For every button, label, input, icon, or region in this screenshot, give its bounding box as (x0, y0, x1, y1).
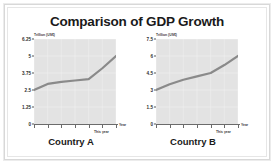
chart-panel-country-a: Trillion (US$) 01.252.53.7556.25 Year Th… (14, 32, 128, 156)
x-tick-mark (102, 125, 103, 128)
page-title: Comparison of GDP Growth (8, 14, 266, 29)
line-chart-svg-a (34, 39, 116, 124)
x-tick-mark (34, 125, 35, 128)
x-tick-mark (197, 125, 198, 128)
y-tick-label: 6.25 (22, 37, 31, 42)
this-year-annotation-a: This year (94, 130, 109, 134)
x-tick-mark (89, 125, 90, 128)
this-year-annotation-b: This year (216, 130, 231, 134)
line-chart-svg-b (156, 39, 238, 124)
chart-caption-country-b: Country B (136, 136, 250, 147)
y-axis-labels-a: 01.252.53.7556.25 (14, 39, 34, 124)
chart-card-inner: Comparison of GDP Growth Trillion (US$) … (7, 7, 267, 157)
x-tick-mark (224, 125, 225, 128)
x-tick-mark (75, 125, 76, 128)
y-tick-label: 2.5 (25, 88, 31, 93)
x-tick-mark (48, 125, 49, 128)
y-axis-unit-label-b: Trillion (US$) (156, 33, 177, 37)
x-tick-mark (238, 125, 239, 128)
chart-card: Comparison of GDP Growth Trillion (US$) … (4, 4, 270, 160)
y-tick-label: 1.5 (147, 105, 153, 110)
y-tick-label: 3.75 (22, 71, 31, 76)
plot-area-wrapper-b: 01.534.567.5 Year This year (136, 39, 250, 124)
y-tick-label: 7.5 (147, 37, 153, 42)
x-axis-label-b: Year (241, 123, 248, 127)
x-axis-label-a: Year (119, 123, 126, 127)
x-tick-mark (211, 125, 212, 128)
y-tick-label: 1.25 (22, 105, 31, 110)
plot-canvas-a (34, 39, 116, 124)
x-tick-mark (61, 125, 62, 128)
plot-canvas-b (156, 39, 238, 124)
x-tick-mark (116, 125, 117, 128)
y-axis-unit-label-a: Trillion (US$) (34, 33, 55, 37)
x-tick-mark (156, 125, 157, 128)
chart-caption-country-a: Country A (14, 136, 128, 147)
chart-panel-country-b: Trillion (US$) 01.534.567.5 Year This ye… (136, 32, 250, 156)
x-tick-mark (170, 125, 171, 128)
plot-area-wrapper-a: 01.252.53.7556.25 Year This year (14, 39, 128, 124)
x-tick-mark (183, 125, 184, 128)
y-tick-label: 4.5 (147, 71, 153, 76)
y-axis-labels-b: 01.534.567.5 (136, 39, 156, 124)
